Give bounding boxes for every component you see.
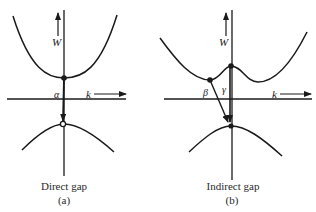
momentum-label-a: k — [86, 88, 92, 100]
conduction-minimum-dot-b — [207, 77, 213, 83]
caption-b: Indirect gap — [207, 180, 260, 192]
conduction-local-max-dot-b — [228, 63, 234, 69]
energy-label-a: W — [52, 36, 62, 48]
panel-direct-gap: W k α Direct gap (a) — [7, 10, 126, 207]
conduction-band-a — [13, 15, 117, 78]
transition-label-beta: β — [202, 87, 208, 98]
conduction-minimum-dot-a — [61, 75, 67, 81]
valence-maximum-dot-a — [60, 121, 65, 126]
valence-band-b — [189, 126, 282, 156]
transition-label-gamma: γ — [222, 84, 227, 95]
caption-a: Direct gap — [41, 180, 88, 192]
transition-alpha-arrow — [63, 78, 64, 121]
energy-label-b: W — [219, 36, 229, 48]
conduction-band-b — [160, 32, 307, 82]
panel-indirect-gap: W k β γ Indirect gap (b) — [160, 10, 312, 207]
valence-band-a — [22, 124, 114, 152]
valence-maximum-dot-b — [228, 123, 233, 128]
transition-label-alpha: α — [54, 89, 60, 100]
sublabel-a: (a) — [58, 194, 71, 207]
sublabel-b: (b) — [226, 194, 239, 207]
momentum-label-b: k — [272, 88, 278, 100]
band-structure-diagram: W k α Direct gap (a) W k β γ Indirect ga… — [0, 0, 316, 212]
